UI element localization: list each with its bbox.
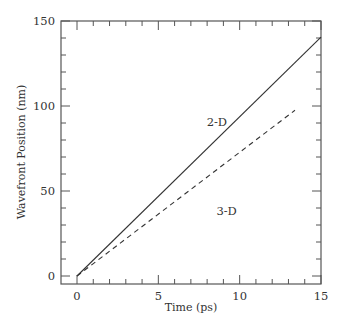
x-tick-label: 0 <box>73 289 80 303</box>
series-2-d-line <box>77 37 321 276</box>
y-axis-label: Wavefront Position (nm) <box>15 85 28 220</box>
series-3-d-line <box>77 110 295 276</box>
y-tick-label: 150 <box>33 14 55 28</box>
x-axis-label: Time (ps) <box>165 301 218 314</box>
y-tick-labels: 050100150 <box>33 14 55 283</box>
y-tick-label: 50 <box>40 184 55 198</box>
x-tick-label: 10 <box>232 289 247 303</box>
plot-frame <box>61 21 321 284</box>
wavefront-chart: 051015 050100150 2-D3-D Time (ps) Wavefr… <box>0 0 344 331</box>
y-tick-label: 0 <box>48 269 55 283</box>
annotation-3-d: 3-D <box>216 204 236 218</box>
y-tick-label: 100 <box>33 99 55 113</box>
x-tick-label: 5 <box>155 289 162 303</box>
axis-ticks <box>61 21 321 284</box>
annotation-2-d: 2-D <box>207 115 227 129</box>
x-tick-label: 15 <box>314 289 329 303</box>
data-series <box>77 37 321 276</box>
